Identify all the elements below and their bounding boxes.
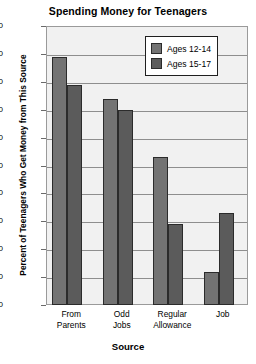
x-axis-title: Source — [0, 341, 256, 352]
chart-title: Spending Money for Teenagers — [0, 5, 256, 17]
legend: Ages 12-14Ages 15-17 — [145, 36, 218, 76]
y-tick-label: 40 — [0, 188, 3, 197]
y-tick-label: 20 — [0, 244, 3, 253]
legend-swatch-icon — [151, 58, 162, 69]
bar — [118, 110, 133, 305]
y-tick-label: 10 — [0, 272, 3, 281]
legend-label: Ages 15-17 — [167, 59, 211, 69]
bar — [67, 85, 82, 305]
bar — [168, 224, 183, 305]
bar — [219, 213, 234, 305]
y-tick-label: 0 — [0, 300, 3, 309]
bar — [153, 157, 168, 305]
y-tick-mark — [41, 305, 46, 306]
legend-item: Ages 12-14 — [151, 41, 211, 56]
y-tick-label: 30 — [0, 216, 3, 225]
legend-label: Ages 12-14 — [167, 44, 211, 54]
y-tick-label: 50 — [0, 161, 3, 170]
bar — [52, 57, 67, 305]
y-tick-label: 100 — [0, 21, 3, 30]
bar — [103, 99, 118, 305]
y-tick-label: 70 — [0, 105, 3, 114]
bar-chart: Spending Money for Teenagers Percent of … — [0, 0, 256, 364]
legend-item: Ages 15-17 — [151, 56, 211, 71]
y-axis-title: Percent of Teenagers Who Get Money from … — [18, 20, 28, 310]
y-tick-label: 80 — [0, 77, 3, 86]
x-tick-label-line: Job — [192, 309, 254, 320]
bar — [204, 272, 219, 305]
legend-swatch-icon — [151, 43, 162, 54]
bar-group — [97, 26, 148, 305]
x-tick-label: Job — [192, 309, 254, 320]
bar-group — [46, 26, 97, 305]
y-tick-label: 60 — [0, 133, 3, 142]
x-tick-label-line: Allowance — [141, 320, 203, 331]
y-tick-label: 90 — [0, 49, 3, 58]
